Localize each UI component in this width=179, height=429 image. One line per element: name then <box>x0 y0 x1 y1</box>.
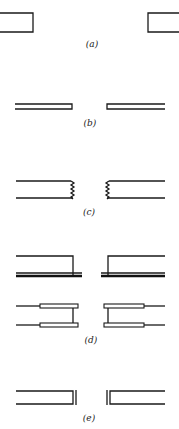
panel-b-left-shape <box>15 104 72 109</box>
panel-d-lower-right-top-sleeve <box>104 304 144 308</box>
panel-a-left-shape <box>0 13 33 32</box>
panel-a-label: (a) <box>86 39 99 49</box>
panel-b: (b) <box>15 104 165 128</box>
panel-c: (c) <box>16 181 165 217</box>
panel-c-right-serrated-end <box>106 181 109 199</box>
panel-d-label: (d) <box>85 335 98 345</box>
panel-e-label: (e) <box>83 413 96 423</box>
panel-d-upper <box>16 256 165 276</box>
panel-d-lower-left-top-sleeve <box>40 304 78 308</box>
panel-e-right-shape <box>110 391 165 404</box>
panel-a-right-shape <box>148 13 179 32</box>
diagram-canvas: (a) (b) (c) (d) <box>0 0 179 429</box>
panel-b-right-shape <box>107 104 165 109</box>
panel-d-lower-right-bottom-sleeve <box>104 323 144 327</box>
panel-b-label: (b) <box>84 118 97 128</box>
panel-d-lower: (d) <box>16 304 165 345</box>
panel-e: (e) <box>16 390 165 423</box>
panel-d-lower-left-bottom-sleeve <box>40 323 78 327</box>
panel-a: (a) <box>0 13 179 49</box>
panel-e-left-shape <box>16 391 73 404</box>
panel-c-left-serrated-end <box>71 181 74 199</box>
panel-c-label: (c) <box>83 207 96 217</box>
